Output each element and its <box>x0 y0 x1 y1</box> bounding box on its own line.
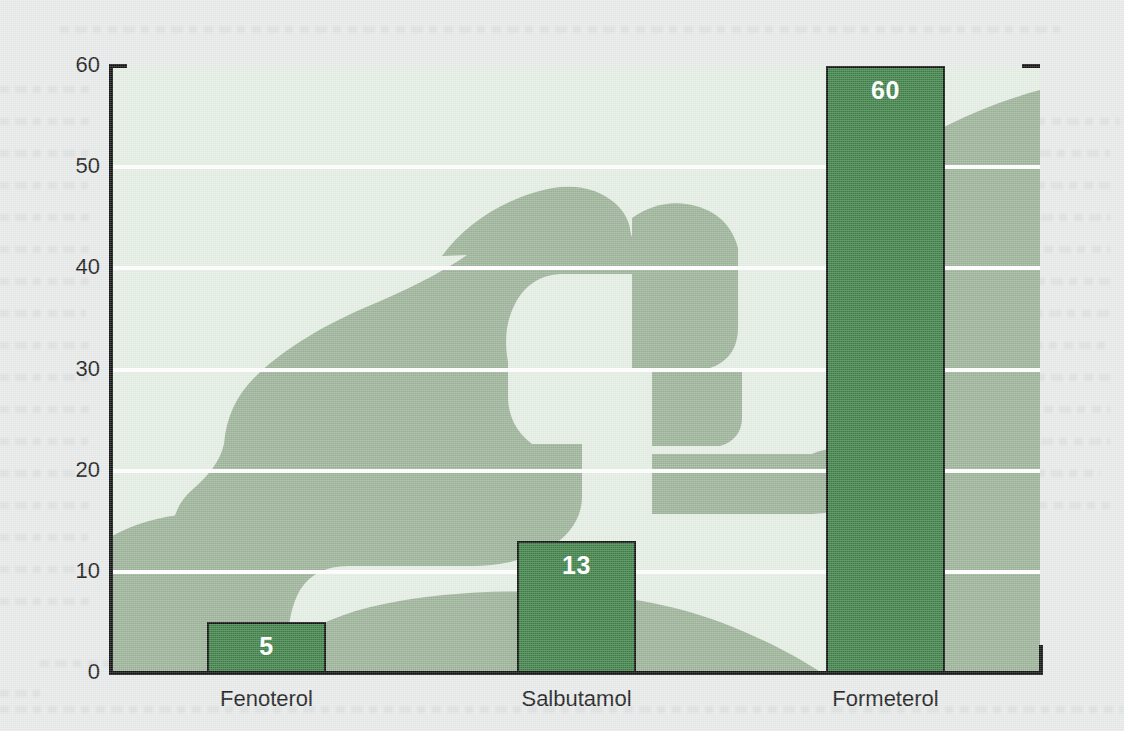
bar-fenoterol[interactable]: 5 <box>207 622 326 673</box>
x-label-salbutamol: Salbutamol <box>517 686 636 712</box>
x-axis-line <box>109 671 1043 675</box>
y-tick-label-60: 60 <box>48 52 100 78</box>
bar-value-formeterol: 60 <box>828 76 943 105</box>
x-axis-top-right-cap <box>1022 64 1040 68</box>
y-tick-label-40: 40 <box>48 254 100 280</box>
y-axis-line <box>109 64 113 675</box>
x-label-fenoterol: Fenoterol <box>207 686 326 712</box>
y-axis-tick-labels: 60 50 40 30 20 10 0 <box>48 0 100 731</box>
x-label-formeterol: Formeterol <box>826 686 945 712</box>
x-axis-right-end-cap <box>1039 645 1043 675</box>
y-tick-label-50: 50 <box>48 153 100 179</box>
y-tick-label-10: 10 <box>48 558 100 584</box>
x-axis-category-labels: Fenoterol Salbutamol Formeterol <box>112 686 1040 726</box>
bar-chart-figure: 5 13 60 60 50 40 30 20 10 0 Fenoterol Sa… <box>0 0 1124 731</box>
y-tick-label-20: 20 <box>48 457 100 483</box>
y-axis-top-cap <box>109 64 127 68</box>
bar-salbutamol[interactable]: 13 <box>517 541 636 673</box>
y-tick-label-0: 0 <box>48 659 100 685</box>
bar-value-salbutamol: 13 <box>519 551 634 580</box>
y-tick-label-30: 30 <box>48 356 100 382</box>
bar-value-fenoterol: 5 <box>209 632 324 661</box>
plot-area: 5 13 60 <box>112 66 1040 673</box>
bar-formeterol[interactable]: 60 <box>826 66 945 673</box>
